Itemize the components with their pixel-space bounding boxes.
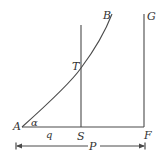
label-T: T [72,60,81,73]
arrowhead-right-icon [139,144,145,149]
label-F: F [143,129,152,142]
label-q: q [46,129,52,140]
diagram: B G T A α q S F P [0,0,163,161]
label-alpha: α [31,117,38,128]
label-P: P [88,140,97,153]
arrowhead-left-icon [16,144,22,149]
label-A: A [12,120,21,133]
label-S: S [77,130,85,143]
curve-AB [22,14,112,127]
label-G: G [147,10,156,23]
label-B: B [102,9,111,22]
